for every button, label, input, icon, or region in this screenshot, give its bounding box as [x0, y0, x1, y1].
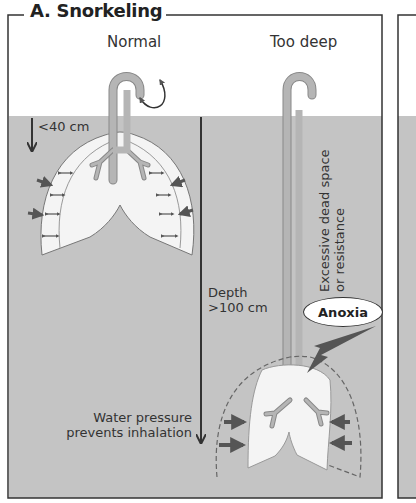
pressure-line1: Water pressure: [50, 410, 192, 425]
depth-label-line1: Depth: [208, 285, 268, 300]
dead-space-line1: Excessive dead space: [317, 149, 332, 292]
anoxia-callout: Anoxia: [303, 297, 383, 327]
depth-label-line2: >100 cm: [208, 300, 268, 315]
pressure-line2: prevents inhalation: [50, 425, 192, 440]
heading-normal: Normal: [107, 33, 161, 51]
depth-label-deep: Depth >100 cm: [208, 285, 268, 315]
pressure-label: Water pressure prevents inhalation: [50, 410, 192, 440]
heading-too-deep: Too deep: [270, 33, 337, 51]
water-area-next-panel: [398, 116, 416, 498]
dead-space-line2: or resistance: [332, 149, 347, 292]
panel-title: A. Snorkeling: [26, 0, 166, 21]
depth-label-normal: <40 cm: [38, 119, 89, 134]
dead-space-label: Excessive dead space or resistance: [317, 149, 347, 292]
